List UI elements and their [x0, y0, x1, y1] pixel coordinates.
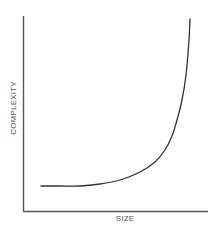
x-axis-label: SIZE [0, 214, 208, 223]
chart-canvas [0, 0, 208, 238]
complexity-curve [41, 19, 190, 186]
y-axis-label: COMPLEXITY [9, 81, 18, 135]
